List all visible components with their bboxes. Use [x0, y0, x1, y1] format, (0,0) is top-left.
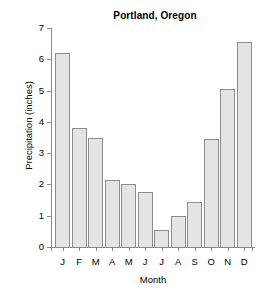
x-tick: [252, 247, 253, 251]
plot-area: 01234567 JFMAMJJASOND: [51, 28, 255, 247]
x-tick-label: A: [170, 256, 187, 268]
x-tick-label: S: [186, 256, 203, 268]
x-tick: [228, 247, 229, 251]
x-tick-label: D: [236, 256, 253, 268]
x-tick: [244, 247, 245, 251]
x-tick-label: J: [153, 256, 170, 268]
y-tick: 2: [47, 184, 51, 185]
x-tick: [162, 247, 163, 251]
chart-title: Portland, Oregon: [60, 10, 250, 21]
x-tick: [63, 247, 64, 251]
precipitation-bar-chart: Portland, Oregon Precipitation (inches) …: [0, 0, 273, 304]
bar: [237, 42, 252, 247]
x-tick-label: O: [203, 256, 220, 268]
bar: [204, 139, 219, 247]
y-axis-title: Precipitation (inches): [23, 46, 34, 206]
y-tick-label: 4: [39, 116, 44, 127]
y-tick-label: 2: [39, 178, 44, 189]
y-tick: 1: [47, 216, 51, 217]
bar: [138, 192, 153, 247]
bar: [72, 128, 87, 247]
y-tick: 7: [47, 28, 51, 29]
y-tick-label: 6: [39, 53, 44, 64]
bar: [154, 230, 169, 247]
x-tick-label: J: [137, 256, 154, 268]
bar: [187, 202, 202, 247]
x-tick-label: M: [120, 256, 137, 268]
y-tick-label: 5: [39, 85, 44, 96]
x-axis-title: Month: [51, 274, 255, 285]
x-tick-label: M: [87, 256, 104, 268]
bar: [88, 138, 103, 248]
y-tick: 6: [47, 59, 51, 60]
x-tick: [96, 247, 97, 251]
x-tick: [195, 247, 196, 251]
bar: [121, 184, 136, 247]
bar: [171, 216, 186, 247]
x-tick-label: J: [54, 256, 71, 268]
x-tick: [178, 247, 179, 251]
y-tick-label: 0: [39, 241, 44, 252]
x-tick-label: N: [219, 256, 236, 268]
x-tick: [211, 247, 212, 251]
y-tick: 3: [47, 153, 51, 154]
y-tick-label: 3: [39, 147, 44, 158]
y-tick: 5: [47, 91, 51, 92]
x-tick: [79, 247, 80, 251]
y-tick: 4: [47, 122, 51, 123]
y-axis-line: [51, 28, 52, 247]
x-tick-label: F: [71, 256, 88, 268]
x-axis-line: [51, 247, 255, 248]
y-tick-label: 1: [39, 210, 44, 221]
bar: [55, 53, 70, 247]
x-tick: [112, 247, 113, 251]
x-tick: [51, 247, 52, 251]
bar: [105, 180, 120, 247]
y-tick-label: 7: [39, 22, 44, 33]
x-tick: [145, 247, 146, 251]
x-tick-label: A: [104, 256, 121, 268]
bar: [220, 89, 235, 247]
x-tick: [129, 247, 130, 251]
